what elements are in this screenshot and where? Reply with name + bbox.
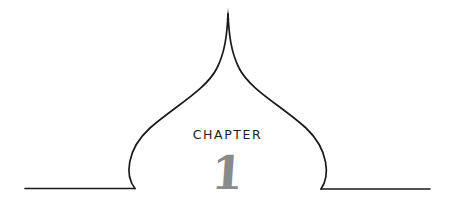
chapter-label: CHAPTER <box>0 127 455 142</box>
chapter-number: 1 <box>0 150 455 196</box>
